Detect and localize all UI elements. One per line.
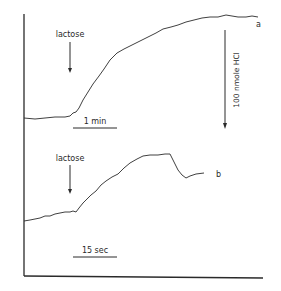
- trace-b-line: [24, 154, 204, 221]
- figure-canvas: a lactose 1 min 100 nmole HCl b lactose …: [0, 0, 281, 291]
- lactose-arrowhead-b: [68, 189, 72, 194]
- trace-b-label: b: [216, 170, 221, 179]
- lactose-arrowhead-a: [68, 68, 72, 73]
- lactose-label-a: lactose: [56, 30, 85, 39]
- lactose-label-b: lactose: [56, 154, 85, 163]
- horizontal-axis: [24, 276, 263, 278]
- scale-bar-label-b: 15 sec: [82, 246, 108, 255]
- hcl-calibration-label: 100 nmole HCl: [232, 52, 241, 107]
- scale-bar-label-a: 1 min: [84, 117, 107, 126]
- hcl-arrowhead: [223, 123, 227, 129]
- trace-a-label: a: [256, 20, 261, 29]
- trace-figure: a lactose 1 min 100 nmole HCl b lactose …: [0, 0, 281, 291]
